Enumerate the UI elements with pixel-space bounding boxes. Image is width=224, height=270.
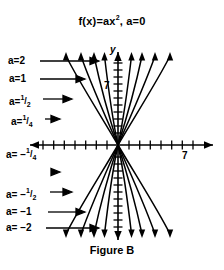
leader-a-neg-1: [48, 208, 85, 215]
label-a-neg-quarter: a= −1/4: [6, 147, 36, 164]
leader-a-neg-2: [46, 224, 99, 231]
figure-title: f(x)=ax2, a=0: [0, 14, 224, 27]
label-a-quarter: a=1/4: [11, 114, 33, 131]
figure-title-text: f(x)=ax2, a=0: [78, 15, 145, 27]
curve-a-half-right: [118, 56, 155, 145]
leader-a-quarter: [45, 115, 60, 122]
label-a-2: a=2: [8, 56, 25, 66]
label-a-neg-2: a= −2: [6, 223, 32, 233]
x-axis-arrow-right: [204, 141, 213, 148]
leader-a-neg-quarter: [51, 168, 60, 175]
y-axis-arrow-down: [114, 231, 121, 240]
figure-caption: Figure B: [0, 244, 224, 256]
label-a-neg-half: a= −1/2: [6, 187, 36, 204]
curve-a-neg-half-left: [81, 145, 118, 234]
curve-a-half-left: [81, 56, 118, 145]
leader-a-half: [43, 95, 72, 102]
parabola-family-figure: [0, 0, 224, 270]
label-a-1: a=1: [9, 74, 26, 84]
label-a-neg-1: a= −1: [6, 207, 32, 217]
x-axis-tick-label: 7: [182, 150, 188, 161]
leader-a-1: [40, 75, 85, 82]
y-axis-label: y: [110, 44, 116, 55]
leader-a-neg-half: [50, 188, 72, 195]
y-axis-tick-label: 7: [104, 80, 110, 91]
label-a-half: a=1/2: [9, 94, 31, 111]
curve-a-neg-half-right: [118, 145, 155, 234]
